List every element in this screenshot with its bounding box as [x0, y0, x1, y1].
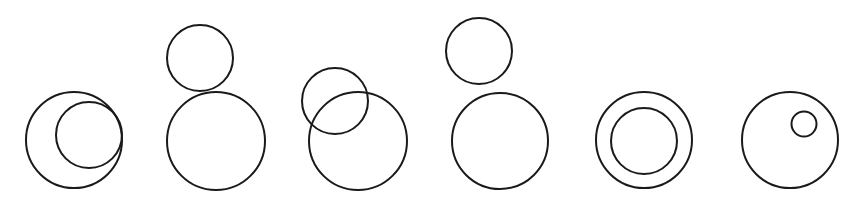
figure-intersecting: [302, 68, 407, 190]
figure-externally-tangent: [167, 25, 265, 190]
figure-internally-tangent: [26, 92, 122, 188]
large-circle: [309, 92, 407, 190]
small-circle: [611, 108, 677, 174]
large-circle: [167, 92, 265, 190]
figure-separate: [446, 18, 548, 189]
small-circle: [56, 102, 122, 168]
small-circle: [792, 112, 817, 137]
large-circle: [742, 92, 838, 188]
small-circle: [167, 25, 233, 91]
large-circle: [452, 93, 548, 189]
figure-concentric: [596, 92, 692, 188]
figure-contained: [742, 92, 838, 188]
circle-relations-diagram: [0, 0, 862, 204]
small-circle: [446, 18, 512, 84]
